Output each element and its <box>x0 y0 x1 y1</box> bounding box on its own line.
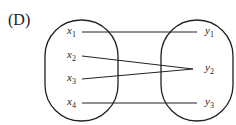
domain-x1: x1 <box>67 24 76 39</box>
arrow-x3-y2 <box>82 69 193 79</box>
domain-x4: x4 <box>67 95 76 110</box>
domain-x3: x3 <box>67 71 76 86</box>
domain-x2: x2 <box>67 48 76 63</box>
mapping-diagram <box>0 0 236 125</box>
arrow-x2-y2 <box>82 56 193 69</box>
codomain-y1: y1 <box>205 24 214 39</box>
codomain-y2: y2 <box>205 61 214 76</box>
codomain-y3: y3 <box>205 95 214 110</box>
domain-oval <box>45 20 118 121</box>
